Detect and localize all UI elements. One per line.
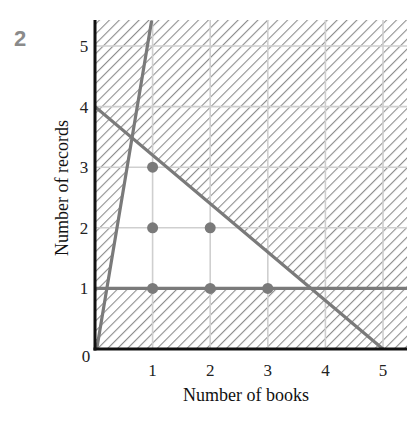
x-tick-label: 3 [264, 361, 273, 380]
y-tick-label: 4 [80, 98, 89, 117]
x-tick-label: 4 [321, 361, 330, 380]
x-tick-label: 5 [379, 361, 388, 380]
x-tick-label: 2 [206, 361, 215, 380]
y-tick-label: 5 [80, 37, 89, 56]
plot-area [95, 20, 415, 349]
lattice-point [147, 162, 158, 173]
feasible-region-chart: 12345123450Number of booksNumber of reco… [0, 0, 417, 423]
lattice-point [262, 283, 273, 294]
x-tick-label: 1 [148, 361, 157, 380]
origin-label: 0 [82, 347, 91, 366]
y-tick-label: 2 [80, 219, 89, 238]
y-axis-title: Number of records [52, 120, 72, 256]
lattice-point [205, 222, 216, 233]
lattice-point [147, 222, 158, 233]
y-tick-label: 1 [80, 279, 89, 298]
lattice-point [205, 283, 216, 294]
x-axis-title: Number of books [183, 385, 309, 405]
y-tick-label: 3 [80, 158, 89, 177]
lattice-point [147, 283, 158, 294]
